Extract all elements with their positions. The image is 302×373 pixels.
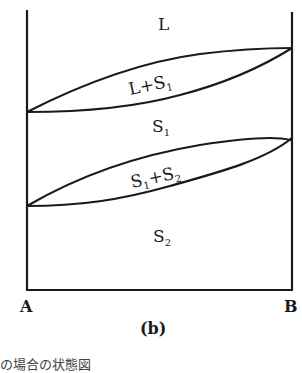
axis-label-B: B <box>284 297 298 316</box>
region-label-L-S1: L+S1 <box>127 70 174 101</box>
svg-text:S2: S2 <box>153 226 171 248</box>
figure-caption: の場合の状態図 <box>0 354 91 373</box>
svg-text:L+S1: L+S1 <box>127 70 174 101</box>
region-label-S2: S2 <box>153 226 171 248</box>
region-label-L: L <box>158 14 169 34</box>
panel-label: (b) <box>140 319 166 338</box>
axis-label-A: A <box>19 297 33 316</box>
region-label-S1: S1 <box>152 116 170 138</box>
svg-text:S1: S1 <box>152 116 170 138</box>
